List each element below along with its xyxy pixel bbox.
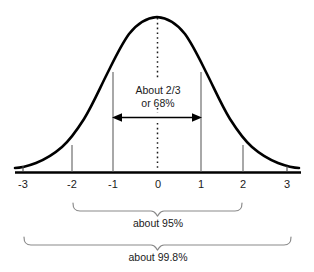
normal-distribution-figure: -3 -2 -1 0 1 2 3 About 2/3 or 68% about … [0, 0, 314, 272]
brace-998-path [24, 237, 291, 250]
one-sigma-double-arrow [112, 113, 202, 121]
chart-canvas [0, 0, 314, 272]
brace-998-label: about 99.8% [78, 251, 238, 264]
annotation-line-1: About 2/3 [98, 84, 218, 97]
x-axis-ticks [23, 166, 287, 172]
brace-95-label: about 95% [78, 217, 238, 230]
x-tick-label-minus3: -3 [11, 178, 35, 190]
x-tick-label-zero: 0 [146, 178, 170, 190]
x-tick-label-plus1: 1 [189, 178, 213, 190]
x-tick-label-minus2: -2 [60, 178, 84, 190]
x-tick-label-minus1: -1 [101, 178, 125, 190]
x-tick-label-plus3: 3 [275, 178, 299, 190]
x-tick-label-plus2: 2 [231, 178, 255, 190]
brace-95-path [73, 203, 242, 216]
annotation-line-2: or 68% [98, 97, 218, 110]
